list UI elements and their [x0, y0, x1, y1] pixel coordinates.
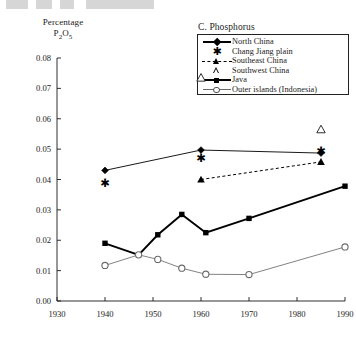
y-tick-label: 0.00	[36, 296, 51, 306]
square-marker-icon	[246, 216, 251, 221]
x-tick-label: 1950	[144, 309, 161, 319]
square-marker-icon	[179, 212, 184, 217]
x-tick-label: 1970	[240, 309, 257, 319]
star-marker-icon: ✱	[316, 144, 326, 158]
x-tick-label: 1930	[48, 309, 65, 319]
open-circle-marker-icon	[136, 252, 142, 258]
y-tick-label: 0.04	[36, 175, 52, 185]
x-tick-label: 1940	[96, 309, 113, 319]
diamond-marker-icon	[102, 167, 109, 174]
y-tick-label: 0.03	[36, 205, 51, 215]
open-circle-marker-icon	[203, 271, 209, 277]
x-tick-label: 1990	[336, 309, 353, 319]
open-circle-marker-icon	[342, 244, 348, 250]
star-marker-icon: ✱	[196, 151, 206, 165]
y-tick-label: 0.08	[36, 53, 51, 63]
series-java	[102, 183, 347, 257]
y-tick-label: 0.06	[36, 114, 52, 124]
series-line	[201, 162, 321, 180]
series-outer-islands-indonesia	[102, 244, 348, 278]
filled-triangle-marker-icon	[317, 158, 325, 165]
y-tick-label: 0.02	[36, 235, 51, 245]
open-circle-marker-icon	[246, 271, 252, 277]
series-line	[105, 150, 321, 170]
y-tick-label: 0.05	[36, 144, 51, 154]
star-marker-icon: ✱	[100, 176, 110, 190]
x-tick-label: 1980	[288, 309, 305, 319]
series-southwest-china	[197, 74, 325, 133]
open-circle-marker-icon	[179, 265, 185, 271]
x-tick-label: 1960	[192, 309, 209, 319]
axes-layer: 0.000.010.020.030.040.050.060.070.081930…	[36, 53, 354, 319]
chart-canvas: 0.000.010.020.030.040.050.060.070.081930…	[0, 0, 356, 345]
square-marker-icon	[155, 232, 160, 237]
open-triangle-marker-icon	[197, 74, 205, 82]
square-marker-icon	[342, 183, 347, 188]
y-tick-label: 0.07	[36, 83, 52, 93]
figure-root: Percentage P2O5 C. Phosphorus North Chin…	[0, 0, 356, 345]
series-layer: ✱✱✱	[100, 74, 348, 278]
open-circle-marker-icon	[102, 262, 108, 268]
square-marker-icon	[203, 230, 208, 235]
series-southeast-china	[197, 158, 325, 182]
series-line	[105, 186, 345, 255]
open-triangle-marker-icon	[317, 125, 325, 133]
series-north-china	[102, 147, 325, 174]
open-circle-marker-icon	[155, 256, 161, 262]
y-tick-label: 0.01	[36, 266, 51, 276]
square-marker-icon	[102, 241, 107, 246]
